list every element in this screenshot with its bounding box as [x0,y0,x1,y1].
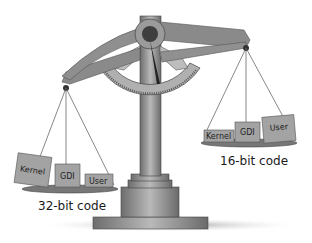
svg-text:User: User [89,177,108,186]
right-pan: Kernel GDI User [201,45,297,147]
svg-text:User: User [269,122,289,133]
right-block-kernel: Kernel [204,130,234,142]
right-block-gdi: GDI [235,122,260,142]
left-pan: Kernel GDI User [14,85,118,193]
left-block-user: User [85,174,113,187]
svg-text:Kernel: Kernel [206,132,231,141]
balance-scale-diagram: Kernel GDI User Kernel GDI User 32-bit c [0,0,312,243]
left-block-gdi: GDI [55,164,80,187]
left-pan-caption: 32-bit code [38,199,106,213]
left-block-kernel: Kernel [14,153,52,187]
right-block-user: User [262,115,296,144]
svg-text:GDI: GDI [60,172,75,181]
right-pan-caption: 16-bit code [220,154,288,168]
svg-text:GDI: GDI [240,128,255,137]
